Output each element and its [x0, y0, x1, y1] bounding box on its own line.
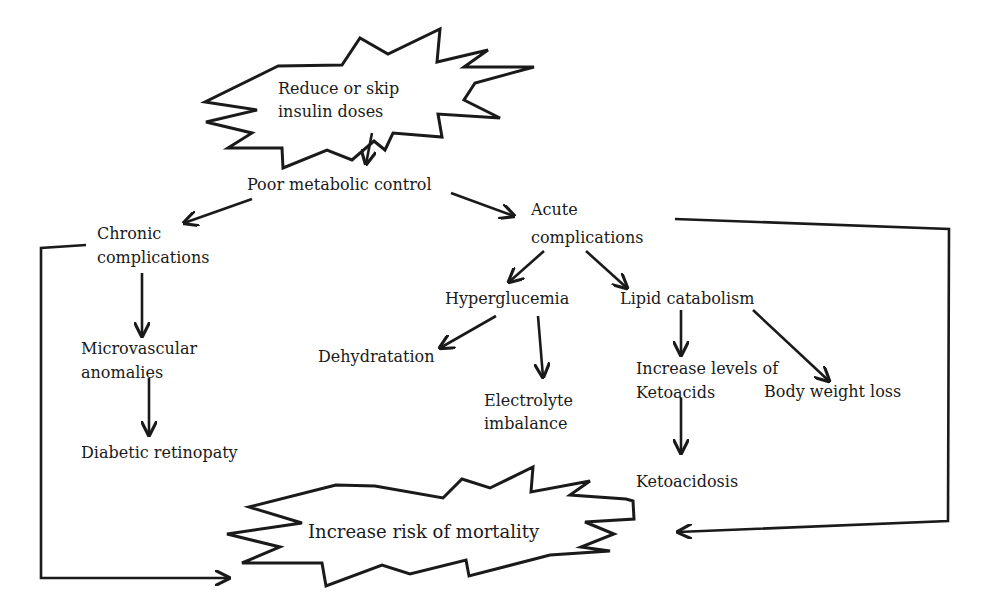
node-chronic-line-2: complications: [97, 246, 209, 270]
node-microvascular-line-2: anomalies: [81, 361, 197, 385]
node-increase-risk-of-mortality: Increase risk of mortality: [308, 521, 539, 543]
node-poor-metabolic-control: Poor metabolic control: [247, 174, 432, 196]
edge-acute-to-lipid: [586, 251, 627, 288]
node-ketoacids-line-2: Ketoacids: [636, 381, 778, 405]
node-ketoacidosis: Ketoacidosis: [636, 471, 738, 493]
node-microvascular-line-1: Microvascular: [81, 337, 197, 361]
node-acute-line-1: Acute: [531, 196, 643, 224]
edge-poor-control-to-chronic: [184, 199, 252, 223]
node-hyperglucemia: Hyperglucemia: [445, 288, 569, 310]
node-ketoacids-line-1: Increase levels of: [636, 357, 778, 381]
node-acute-line-2: complications: [531, 224, 643, 252]
edge-poor-control-to-acute: [451, 193, 514, 216]
node-electrolyte-line-1: Electrolyte: [484, 389, 573, 412]
node-acute-complications: Acute complications: [531, 196, 643, 252]
edge-hyperglucemia-to-electrolyte: [538, 316, 543, 377]
node-trigger-line-2: insulin doses: [278, 100, 399, 123]
node-electrolyte-line-2: imbalance: [484, 412, 573, 435]
node-microvascular-anomalies: Microvascular anomalies: [81, 337, 197, 385]
node-body-weight-loss: Body weight loss: [764, 381, 901, 403]
node-electrolyte-imbalance: Electrolyte imbalance: [484, 389, 573, 435]
edge-acute-to-hyperglucemia: [509, 251, 544, 282]
node-chronic-line-1: Chronic: [97, 222, 209, 246]
node-lipid-catabolism: Lipid catabolism: [620, 288, 754, 310]
node-dehydratation: Dehydratation: [318, 346, 435, 368]
node-increase-ketoacids: Increase levels of Ketoacids: [636, 357, 778, 405]
edge-hyperglucemia-to-dehydration: [440, 316, 496, 348]
node-trigger-line-1: Reduce or skip: [278, 77, 399, 100]
node-chronic-complications: Chronic complications: [97, 222, 209, 270]
node-trigger: Reduce or skip insulin doses: [278, 77, 399, 123]
edge-chronic-to-mortality: [41, 245, 229, 578]
node-diabetic-retinopathy: Diabetic retinopaty: [81, 442, 238, 464]
